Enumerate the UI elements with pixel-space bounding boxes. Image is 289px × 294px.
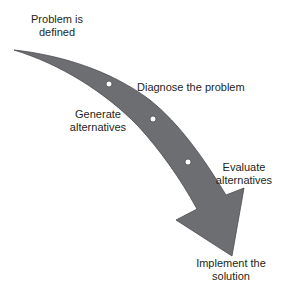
- step-label-diagnose: Diagnose the problem: [137, 81, 245, 94]
- curved-arrow: [0, 0, 289, 294]
- step-label-line: alternatives: [66, 121, 130, 134]
- decision-process-diagram: Problem is defined Diagnose the problem …: [0, 0, 289, 294]
- step-label-line: Diagnose the problem: [137, 81, 245, 94]
- step-label-line: Generate: [66, 108, 130, 121]
- step-label-evaluate-alternatives: Evaluate alternatives: [212, 161, 276, 187]
- step-label-line: alternatives: [212, 174, 276, 187]
- step-label-line: Implement the: [186, 257, 276, 270]
- step-label-line: Evaluate: [212, 161, 276, 174]
- step-label-implement-solution: Implement the solution: [186, 257, 276, 283]
- step-dot-1: [106, 81, 112, 87]
- step-dot-3: [185, 159, 191, 165]
- step-dot-2: [150, 116, 156, 122]
- step-label-line: defined: [22, 26, 92, 39]
- step-label-line: solution: [186, 270, 276, 283]
- step-label-problem-defined: Problem is defined: [22, 13, 92, 39]
- step-label-generate-alternatives: Generate alternatives: [66, 108, 130, 134]
- step-label-line: Problem is: [22, 13, 92, 26]
